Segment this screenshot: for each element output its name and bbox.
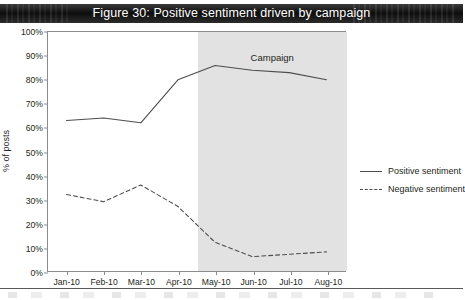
x-axis-tick-label: Apr-10 xyxy=(166,277,192,287)
y-axis-tick-label: 80% xyxy=(26,75,48,85)
x-axis-tick-label: Jun-10 xyxy=(240,277,266,287)
legend-item-positive-sentiment: Positive sentiment xyxy=(360,162,460,180)
x-axis-tick-mark xyxy=(328,271,329,275)
x-axis-tick-label: Jan-10 xyxy=(54,277,80,287)
footer-texture xyxy=(8,292,438,298)
page-title: Figure 30: Positive sentiment driven by … xyxy=(0,4,463,23)
y-axis-tick-label: 100% xyxy=(21,27,48,37)
y-axis-tick-label: 30% xyxy=(26,196,48,206)
dashed-line-icon xyxy=(360,185,382,194)
chart-legend: Positive sentiment Negative sentiment xyxy=(360,162,460,198)
x-axis-tick-mark xyxy=(179,271,180,275)
solid-line-icon xyxy=(360,167,382,176)
x-axis-tick-label: May-10 xyxy=(202,277,231,287)
y-axis-tick-label: 60% xyxy=(26,123,48,133)
y-axis-tick-label: 10% xyxy=(26,244,48,254)
y-axis-tick-label: 50% xyxy=(26,148,48,158)
y-axis-tick-label: 40% xyxy=(26,172,48,182)
footer-divider xyxy=(0,288,463,289)
chart-container: % of posts Campaign 0%10%20%30%40%50%60%… xyxy=(0,23,463,281)
x-axis-tick-label: Jul-10 xyxy=(279,277,302,287)
legend-label-negative-sentiment: Negative sentiment xyxy=(388,184,465,194)
y-axis-tick-label: 20% xyxy=(26,220,48,230)
y-axis-label: % of posts xyxy=(1,130,11,172)
x-axis-tick-mark xyxy=(104,271,105,275)
plot-area: Campaign 0%10%20%30%40%50%60%70%80%90%10… xyxy=(47,31,346,272)
y-axis-tick-label: 0% xyxy=(31,268,48,278)
x-axis-tick-label: Aug-10 xyxy=(314,277,342,287)
x-axis-tick-mark xyxy=(254,271,255,275)
positive-sentiment-line xyxy=(67,65,327,122)
x-axis-tick-label: Feb-10 xyxy=(90,277,117,287)
series-lines xyxy=(48,32,345,271)
x-axis-tick-label: Mar-10 xyxy=(128,277,155,287)
negative-sentiment-line xyxy=(67,185,327,257)
x-axis-tick-mark xyxy=(141,271,142,275)
y-axis-tick-label: 90% xyxy=(26,51,48,61)
y-axis-tick-label: 70% xyxy=(26,99,48,109)
legend-label-positive-sentiment: Positive sentiment xyxy=(388,166,461,176)
x-axis-tick-mark xyxy=(291,271,292,275)
x-axis-tick-mark xyxy=(67,271,68,275)
legend-item-negative-sentiment: Negative sentiment xyxy=(360,180,460,198)
figure-title-bar: Figure 30: Positive sentiment driven by … xyxy=(0,4,463,23)
x-axis-tick-mark xyxy=(216,271,217,275)
